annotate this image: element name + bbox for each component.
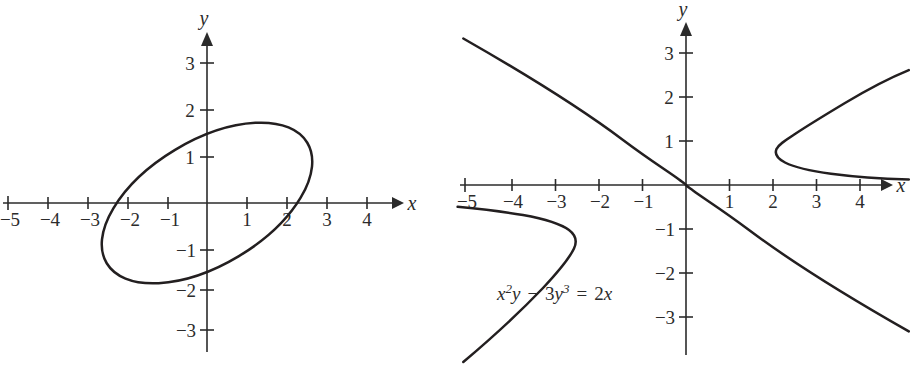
left-xtick-label: −3 (80, 209, 100, 230)
left-ytick-label: −1 (176, 240, 196, 261)
left-xtick-label: −2 (120, 209, 140, 230)
eq-exp-3: 3 (562, 281, 570, 296)
right-xtick-label: 3 (812, 191, 822, 212)
left-x-axis-label: x (407, 192, 417, 214)
right-ytick-label: 3 (664, 43, 674, 64)
eq-var-y2: y (553, 283, 564, 304)
left-xtick-label: 3 (322, 209, 332, 230)
left-y-axis (200, 32, 214, 352)
eq-var-x2: x (603, 283, 613, 304)
eq-coef-3: 3 (545, 283, 555, 304)
right-ytick-label: −3 (655, 307, 675, 328)
right-y-axis-label: y (677, 0, 688, 21)
right-plot-panel: −5 −4 −3 −2 −1 1 2 3 4 3 2 1 −1 −2 −3 x … (455, 0, 910, 365)
right-curve-right-branch (776, 70, 909, 179)
right-x-axis-label: x (896, 174, 906, 196)
right-xtick-label: 1 (725, 191, 735, 212)
right-xtick-label: 2 (768, 191, 778, 212)
left-ytick-label: −2 (176, 280, 196, 301)
right-ytick-label: 1 (664, 131, 674, 152)
right-ytick-label: 2 (664, 87, 674, 108)
figure-container: −5 −4 −3 −2 −1 1 2 3 4 3 2 1 −1 −2 −3 x … (0, 0, 910, 365)
eq-op-equals: = (577, 283, 588, 304)
left-plot-svg: −5 −4 −3 −2 −1 1 2 3 4 3 2 1 −1 −2 −3 x … (0, 0, 455, 365)
left-xtick-label: −1 (160, 209, 180, 230)
left-ytick-label: −3 (176, 320, 196, 341)
left-xtick-label: −4 (40, 209, 61, 230)
eq-coef-2: 2 (594, 283, 604, 304)
right-ytick-label: −2 (655, 263, 675, 284)
left-ytick-label: 2 (185, 100, 195, 121)
left-xtick-label: 4 (362, 209, 372, 230)
right-plot-svg: −5 −4 −3 −2 −1 1 2 3 4 3 2 1 −1 −2 −3 x … (455, 0, 910, 365)
right-xtick-label: −1 (633, 191, 653, 212)
left-ytick-label: 3 (185, 53, 195, 74)
left-x-axis (3, 196, 404, 210)
right-xtick-label: −2 (590, 191, 610, 212)
right-xtick-label: 4 (855, 191, 865, 212)
right-ytick-label: −1 (655, 219, 675, 240)
right-xtick-label: −3 (546, 191, 566, 212)
left-xtick-label: −5 (0, 209, 20, 230)
left-y-axis-label: y (198, 7, 209, 30)
eq-var-y: y (510, 283, 521, 304)
right-x-axis (460, 178, 893, 192)
right-equation-label: x2y−3y3=2x (496, 281, 613, 304)
left-xtick-label: 1 (242, 209, 252, 230)
left-ytick-label: 1 (185, 147, 195, 168)
eq-op-minus: − (527, 283, 538, 304)
left-plot-panel: −5 −4 −3 −2 −1 1 2 3 4 3 2 1 −1 −2 −3 x … (0, 0, 455, 365)
right-xtick-label: −4 (503, 191, 524, 212)
